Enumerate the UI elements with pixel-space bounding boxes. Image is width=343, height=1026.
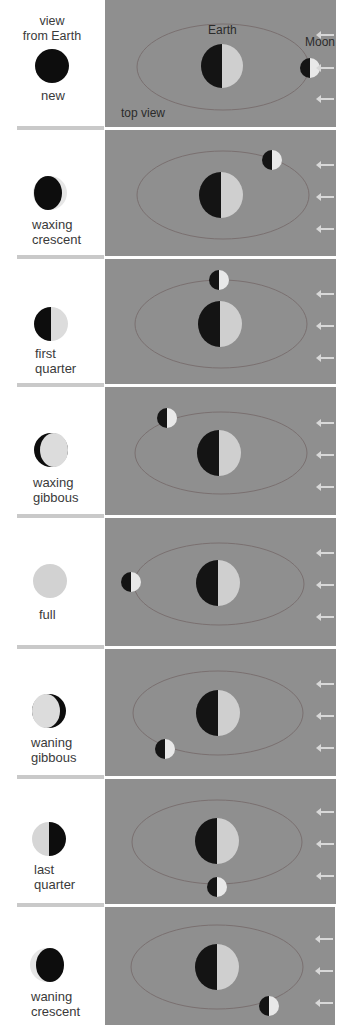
phase-label: waning crescent (31, 989, 80, 1019)
sunlight-arrow-icon (320, 811, 334, 813)
sunlight-arrow-icon (320, 164, 334, 166)
phase-label: waxing gibbous (33, 475, 79, 505)
sunlight-arrow-icon (319, 970, 333, 972)
sunlight-arrow-icon (320, 843, 334, 845)
view-from-earth-column: last quarter (0, 779, 104, 904)
orbit-panel (105, 259, 336, 384)
phase-label: waxing crescent (32, 217, 81, 247)
orbit-diagram (105, 907, 335, 1025)
sunlight-arrow-icon (320, 357, 334, 359)
moon-phase-new-icon (0, 0, 104, 127)
view-from-earth-column: full (0, 518, 104, 646)
sunlight-arrow-icon (320, 616, 334, 618)
top-view-label: top view (121, 106, 165, 120)
view-from-earth-column: waning gibbous (0, 649, 104, 776)
earth-icon (201, 44, 243, 88)
phase-row-full: full (0, 518, 343, 646)
sunlight-arrow-icon (320, 293, 334, 295)
view-from-earth-column: waxing crescent (0, 130, 104, 256)
earth-icon (195, 944, 239, 990)
orbit-panel (105, 649, 336, 776)
earth-label: Earth (208, 23, 237, 37)
earth-icon (199, 172, 243, 218)
earth-icon (196, 560, 240, 606)
orbit-panel (105, 907, 335, 1025)
view-from-earth-column: view from Earth new (0, 0, 104, 127)
phase-label: new (41, 88, 65, 103)
moon-icon (157, 408, 177, 428)
sunlight-arrow-icon (320, 875, 334, 877)
phase-row-waning-gibbous: waning gibbous (0, 649, 343, 776)
phase-row-waxing-crescent: waxing crescent (0, 130, 343, 256)
view-from-earth-column: waning crescent (0, 907, 104, 1025)
sunlight-arrow-icon (320, 715, 334, 717)
moon-icon (209, 270, 229, 290)
orbit-panel (105, 518, 336, 646)
moon-icon (259, 996, 279, 1016)
view-from-earth-column: waxing gibbous (0, 387, 104, 515)
sunlight-arrow-icon (320, 584, 334, 586)
sunlight-arrow-icon (320, 552, 334, 554)
moon-phase-full-icon (0, 518, 104, 646)
phase-row-first-quarter: first quarter (0, 259, 343, 384)
orbit-diagram (105, 259, 336, 384)
sunlight-arrow-icon (320, 683, 334, 685)
sunlight-arrow-icon (320, 98, 334, 100)
sunlight-arrow-icon (319, 1002, 333, 1004)
moon-icon (121, 572, 141, 592)
sunlight-arrow-icon (320, 196, 334, 198)
sunlight-arrow-icon (320, 228, 334, 230)
earth-icon (195, 818, 239, 864)
phase-row-waxing-gibbous: waxing gibbous (0, 387, 343, 515)
orbit-diagram (105, 649, 336, 776)
earth-icon (196, 690, 240, 736)
phase-label: first quarter (35, 346, 76, 376)
orbit-panel-top-view: Earth Moon top view (105, 0, 336, 127)
phase-label: full (39, 607, 56, 622)
orbit-diagram (105, 779, 336, 904)
phase-row-last-quarter: last quarter (0, 779, 343, 904)
moon-icon (155, 739, 175, 759)
orbit-diagram (105, 387, 336, 515)
moon-icon (207, 877, 227, 897)
moon-icon (262, 150, 282, 170)
phase-label: last quarter (34, 862, 75, 892)
orbit-panel (105, 130, 336, 256)
sunlight-arrow-icon (320, 454, 334, 456)
sunlight-arrow-icon (320, 67, 334, 69)
sunlight-arrow-icon (319, 938, 333, 940)
view-from-earth-column: first quarter (0, 259, 104, 384)
sunlight-arrow-icon (320, 486, 334, 488)
orbit-panel (105, 779, 336, 904)
earth-icon (197, 430, 241, 476)
sunlight-arrow-icon (320, 747, 334, 749)
sunlight-arrow-icon (320, 422, 334, 424)
phase-label: waning gibbous (31, 735, 77, 765)
orbit-panel (105, 387, 336, 515)
orbit-diagram (105, 130, 336, 256)
earth-icon (198, 301, 242, 347)
phase-row-waning-crescent: waning crescent (0, 907, 343, 1025)
sunlight-arrow-icon (320, 325, 334, 327)
phase-row-new: view from Earth new Earth Moon top view (0, 0, 343, 127)
sunlight-arrow-icon (320, 34, 334, 36)
orbit-diagram (105, 518, 336, 646)
